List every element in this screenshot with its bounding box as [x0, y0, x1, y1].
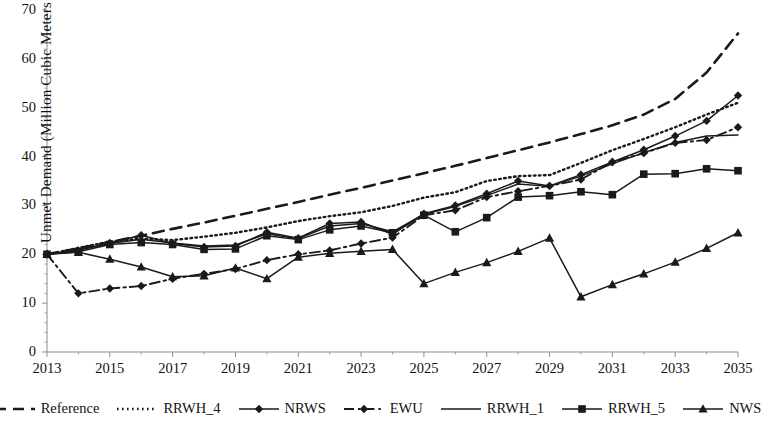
y-tick-label: 70: [6, 1, 36, 18]
legend-item-nrws[interactable]: NRWS: [238, 400, 326, 417]
y-tick-label: 30: [6, 196, 36, 213]
legend-item-ewu[interactable]: EWU: [343, 400, 423, 417]
legend-label: NRWS: [285, 400, 326, 417]
x-tick-label: 2015: [88, 360, 132, 377]
legend-item-rrwh_4[interactable]: RRWH_4: [116, 400, 220, 417]
legend-swatch-rrwh_1: [440, 402, 482, 416]
legend-label: NWS: [729, 400, 761, 417]
legend-swatch-reference: [0, 402, 36, 416]
legend-item-nws[interactable]: NWS: [682, 400, 761, 417]
series-ewu: [43, 123, 742, 298]
y-tick-label: 10: [6, 294, 36, 311]
x-tick-label: 2029: [528, 360, 572, 377]
legend-label: EWU: [390, 400, 423, 417]
x-tick-label: 2025: [402, 360, 446, 377]
x-tick-label: 2035: [716, 360, 760, 377]
y-tick-label: 50: [6, 99, 36, 116]
y-tick-label: 0: [6, 343, 36, 360]
x-tick-label: 2021: [276, 360, 320, 377]
legend-swatch-rrwh_4: [116, 402, 158, 416]
series-reference: [47, 33, 738, 254]
legend-label: RRWH_5: [608, 400, 665, 417]
legend-swatch-ewu: [343, 402, 385, 416]
legend-label: Reference: [41, 400, 100, 417]
x-tick-label: 2017: [151, 360, 195, 377]
x-tick-label: 2023: [339, 360, 383, 377]
series-rrwh_5: [43, 165, 742, 258]
legend-swatch-nrws: [238, 402, 280, 416]
y-tick-label: 20: [6, 245, 36, 262]
legend-label: RRWH_4: [163, 400, 220, 417]
axes: [42, 10, 738, 357]
x-tick-label: 2019: [213, 360, 257, 377]
y-tick-label: 60: [6, 50, 36, 67]
legend-item-reference[interactable]: Reference: [0, 400, 99, 417]
legend-item-rrwh_5[interactable]: RRWH_5: [561, 400, 665, 417]
y-tick-label: 40: [6, 148, 36, 165]
legend-swatch-rrwh_5: [561, 402, 603, 416]
legend-item-rrwh_1[interactable]: RRWH_1: [440, 400, 544, 417]
chart-legend: ReferenceRRWH_4NRWSEWURRWH_1RRWH_5NWS: [0, 392, 755, 425]
x-tick-label: 2031: [590, 360, 634, 377]
legend-label: RRWH_1: [487, 400, 544, 417]
x-tick-label: 2027: [465, 360, 509, 377]
legend-swatch-nws: [682, 402, 724, 416]
x-tick-label: 2033: [653, 360, 697, 377]
x-tick-label: 2013: [25, 360, 69, 377]
y-axis-title: Unmet Demand (Million Cubic Meters / yea…: [38, 0, 55, 251]
